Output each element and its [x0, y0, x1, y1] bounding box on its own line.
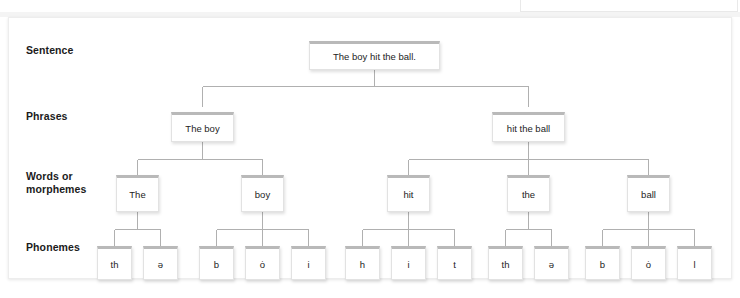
diagram-card: Sentence Phrases Words or morphemes Phon… [8, 17, 732, 279]
row-label-sentence: Sentence [26, 44, 74, 57]
language-hierarchy-diagram: Sentence Phrases Words or morphemes Phon… [9, 18, 733, 280]
node-phoneme-3[interactable]: b [199, 246, 234, 280]
node-phoneme-10[interactable]: ə [534, 246, 569, 280]
node-word-boy[interactable]: boy [241, 175, 284, 212]
node-phrase-the-boy[interactable]: The boy [171, 112, 234, 142]
node-phoneme-9[interactable]: th [488, 246, 523, 280]
node-phoneme-7[interactable]: i [391, 246, 426, 280]
node-phoneme-5[interactable]: i [291, 246, 326, 280]
node-phoneme-6[interactable]: h [345, 246, 380, 280]
node-phrase-hit-the-ball[interactable]: hit the ball [492, 112, 565, 142]
node-phoneme-12[interactable]: ȯ [631, 246, 666, 280]
partial-panel-above [520, 0, 738, 12]
node-phoneme-8[interactable]: t [437, 246, 472, 280]
row-label-words-or-morphemes: Words or morphemes [26, 170, 86, 195]
node-word-ball[interactable]: ball [627, 175, 670, 212]
node-phoneme-13[interactable]: l [677, 246, 712, 280]
node-phoneme-4[interactable]: ȯ [245, 246, 280, 280]
node-phoneme-2[interactable]: ə [143, 246, 178, 280]
row-label-phrases: Phrases [26, 110, 68, 123]
node-word-the-2[interactable]: the [507, 175, 550, 212]
node-phoneme-1[interactable]: th [97, 246, 132, 280]
row-label-phonemes: Phonemes [26, 241, 80, 254]
node-sentence[interactable]: The boy hit the ball. [309, 41, 440, 70]
node-word-hit[interactable]: hit [387, 175, 430, 212]
node-phoneme-11[interactable]: b [585, 246, 620, 280]
node-word-the-1[interactable]: The [116, 175, 159, 212]
